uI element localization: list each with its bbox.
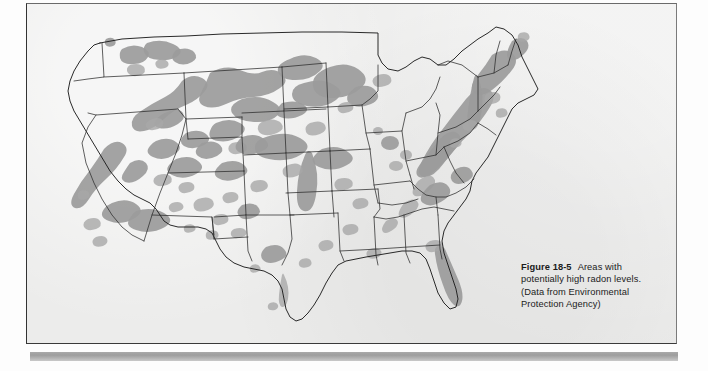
scanned-page-sheet: Figure 18-5Areas with potentially high r… [0, 0, 708, 371]
figure-number-label: Figure 18-5 [521, 262, 572, 272]
page-footer-rule [30, 352, 678, 361]
figure-caption: Figure 18-5Areas with potentially high r… [521, 261, 665, 311]
